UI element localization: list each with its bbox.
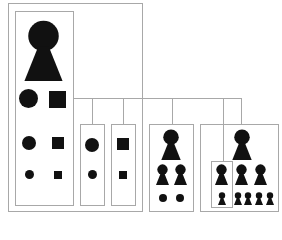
keyhole-medium-icon — [232, 129, 252, 160]
square-large-icon — [49, 91, 66, 108]
keyhole-small-icon — [174, 164, 187, 185]
square-medium-icon — [52, 137, 64, 149]
circle-small-icon — [88, 170, 97, 179]
keyhole-tiny-icon — [218, 192, 226, 205]
square-small-icon — [119, 171, 127, 179]
circles-subset-box — [80, 124, 105, 206]
keyhole-small-icon — [254, 164, 267, 185]
keyhole-tiny-icon — [244, 192, 252, 205]
circle-large-icon — [19, 89, 38, 108]
circle-small-icon — [25, 170, 34, 179]
connector-to-squares — [123, 98, 124, 124]
connector-to-family-1 — [172, 98, 173, 124]
connector-to-family-2 — [241, 98, 242, 124]
dot-icon — [176, 194, 184, 202]
circle-medium-icon — [22, 136, 36, 150]
circle-medium-icon — [85, 138, 99, 152]
square-small-icon — [54, 171, 62, 179]
keyhole-small-icon — [156, 164, 169, 185]
keyhole-tiny-icon — [234, 192, 242, 205]
connector-horizontal — [73, 98, 242, 99]
keyhole-small-icon — [215, 164, 228, 185]
square-medium-icon — [117, 138, 129, 150]
squares-subset-box — [111, 124, 136, 206]
connector-to-circles — [92, 98, 93, 124]
keyhole-small-icon — [235, 164, 248, 185]
keyhole-tiny-icon — [255, 192, 263, 205]
dot-icon — [159, 194, 167, 202]
keyhole-medium-icon — [161, 129, 181, 160]
keyhole-large-icon — [24, 20, 63, 81]
keyhole-tiny-icon — [266, 192, 274, 205]
